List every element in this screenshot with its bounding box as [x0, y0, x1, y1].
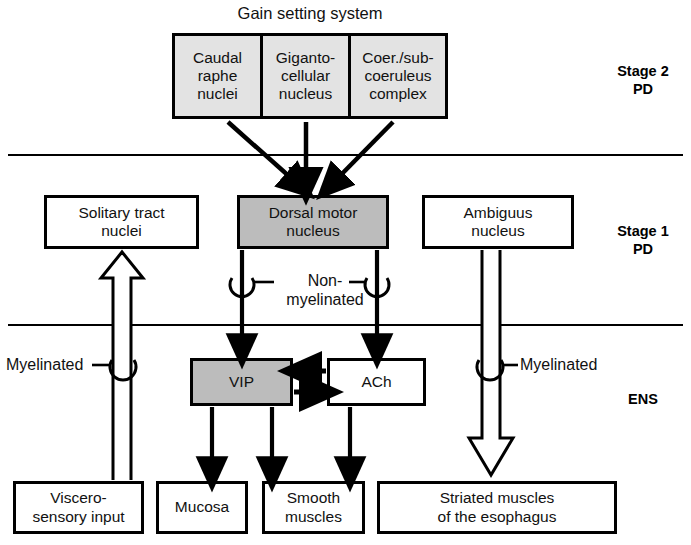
arrow-coeruleus-to-dmn — [330, 122, 393, 186]
hollow-arrow-afferent-to-solitary-tract — [101, 252, 143, 480]
label-non-myelinated: Non- myelinated — [280, 271, 370, 309]
gain-cell-coeruleus-subcoeruleus-complex[interactable]: Coer./sub- coeruleus complex — [351, 36, 445, 116]
box-viscero-sensory-input[interactable]: Viscero- sensory input — [13, 481, 144, 534]
label-myelinated-left: Myelinated — [6, 355, 101, 374]
page-title: Gain setting system — [172, 4, 448, 23]
label-myelinated-right: Myelinated — [520, 355, 620, 374]
nonmyelinated-symbol-left — [230, 278, 254, 297]
box-solitary-tract-nuclei[interactable]: Solitary tract nuclei — [44, 195, 199, 249]
arrow-raphe-to-dmn — [228, 122, 300, 186]
hollow-arrow-ambiguus-to-striated-muscles — [469, 250, 513, 475]
stage-label-ens: ENS — [600, 390, 686, 408]
diagram-canvas: Gain setting system Caudal raphe nuclei … — [0, 0, 691, 545]
box-vip[interactable]: VIP — [190, 358, 293, 406]
gain-cell-caudal-raphe-nuclei[interactable]: Caudal raphe nuclei — [175, 36, 260, 116]
box-ach[interactable]: ACh — [327, 358, 426, 406]
myelinated-symbol-left — [110, 360, 136, 380]
box-dorsal-motor-nucleus[interactable]: Dorsal motor nucleus — [237, 195, 389, 249]
myelinated-symbol-right — [477, 360, 503, 380]
stage-label-stage-2-pd: Stage 2 PD — [600, 62, 686, 98]
box-ambiguus-nucleus[interactable]: Ambiguus nucleus — [422, 195, 574, 249]
box-mucosa[interactable]: Mucosa — [156, 481, 248, 534]
box-smooth-muscles[interactable]: Smooth muscles — [262, 481, 365, 534]
stage-label-stage-1-pd: Stage 1 PD — [600, 222, 686, 258]
gain-cell-gigantocellular-nucleus[interactable]: Giganto- cellular nucleus — [263, 36, 348, 116]
box-striated-muscles-esophagus[interactable]: Striated muscles of the esophagus — [377, 481, 617, 534]
